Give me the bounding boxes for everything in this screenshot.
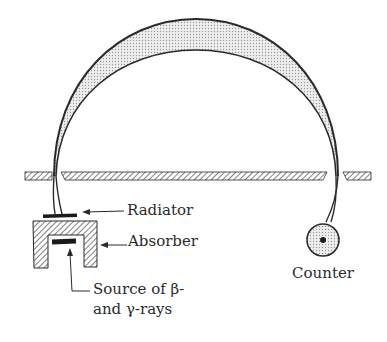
source-label-line2: and γ-rays (93, 300, 172, 318)
baffle-center (61, 172, 327, 180)
counter-label: Counter (292, 264, 355, 282)
left-trajectory-lower (53, 176, 55, 214)
radiator-label: Radiator (127, 201, 194, 219)
source-label-line1: Source of β- (93, 280, 184, 298)
left-trajectory-lower-2 (56, 176, 62, 214)
absorber (33, 221, 97, 268)
radiator-arrow (85, 211, 124, 212)
source-block (52, 239, 76, 245)
radiator-plate (43, 213, 77, 218)
right-trajectory-lower-2 (331, 176, 336, 222)
spectrometer-diagram: Radiator Absorber Source of β- and γ-ray… (0, 0, 387, 342)
trajectory-band (54, 19, 338, 176)
counter-center-dot (320, 237, 326, 243)
absorber-arrowhead (100, 242, 108, 248)
source-arrowhead (67, 248, 73, 256)
radiator-arrowhead (82, 209, 90, 215)
baffle-right (343, 172, 371, 180)
absorber-label: Absorber (127, 232, 199, 250)
baffle-left (25, 172, 52, 180)
